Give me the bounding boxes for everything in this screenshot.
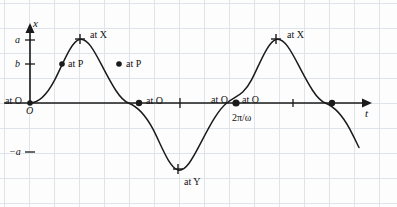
origin-label: O — [26, 106, 33, 116]
annotation-at-y-trough: at Y — [184, 177, 201, 187]
y-tick-label-a: a — [15, 35, 20, 45]
annotation-at-p-falling: at P — [126, 59, 141, 69]
point-at-o-period — [232, 99, 239, 106]
annotation-at-o-origin: at O — [5, 96, 22, 106]
shm-graph-figure: x t a b −a 2π/ω at O O at P at X at P at… — [0, 0, 397, 207]
annotation-at-x-second-crest: at X — [287, 30, 304, 40]
point-final-zero — [329, 100, 335, 106]
y-tick-label-b: b — [15, 59, 20, 69]
x-tick-label-period: 2π/ω — [232, 113, 251, 123]
point-at-p-rising — [59, 61, 65, 67]
annotation-at-p-rising: at P — [68, 59, 83, 69]
annotation-at-x-first-crest: at X — [90, 30, 107, 40]
point-at-o-mid — [136, 100, 142, 106]
point-at-p-falling — [116, 61, 122, 67]
annotation-at-o-period-left: at O — [211, 95, 228, 105]
annotation-at-o-mid: at O — [146, 96, 163, 106]
annotation-at-o-period: at O — [242, 95, 259, 105]
y-axis-label: x — [33, 18, 38, 29]
y-tick-label-negative-a: −a — [9, 147, 21, 157]
x-axis-label: t — [365, 108, 368, 119]
